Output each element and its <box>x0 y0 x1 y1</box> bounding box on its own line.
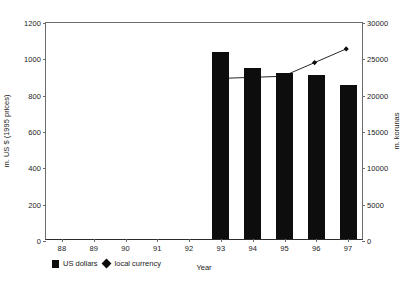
left-axis-tick-label: 200 <box>28 200 41 209</box>
legend-bar-label: US dollars <box>63 259 98 268</box>
right-axis-tick-label: 0 <box>367 237 371 246</box>
x-axis-tick-mark <box>253 239 254 242</box>
x-axis-tick-mark <box>94 239 95 242</box>
x-axis-tick-mark <box>348 239 349 242</box>
x-axis-tick-mark <box>62 239 63 242</box>
right-axis-tick-mark <box>362 168 365 169</box>
right-axis-tick-label: 5000 <box>367 200 384 209</box>
left-axis-tick-mark <box>43 168 46 169</box>
bar <box>244 68 261 239</box>
x-axis-tick-mark <box>189 239 190 242</box>
left-axis-tick-mark <box>43 23 46 24</box>
right-axis-tick-mark <box>362 132 365 133</box>
left-axis-tick-mark <box>43 205 46 206</box>
x-axis-tick-mark <box>126 239 127 242</box>
line-marker-diamond-icon <box>312 60 317 65</box>
right-axis-tick-mark <box>362 23 365 24</box>
chart-figure: m. US $ (1995 prices) m. korunas Year 02… <box>0 0 407 282</box>
x-axis-tick-mark <box>285 239 286 242</box>
x-axis-tick-mark <box>316 239 317 242</box>
left-axis-tick-mark <box>43 59 46 60</box>
x-axis-tick-label: 88 <box>58 244 67 253</box>
x-axis-title: Year <box>196 263 211 272</box>
left-axis-tick-label: 800 <box>28 91 41 100</box>
left-axis-tick-mark <box>43 96 46 97</box>
right-axis-tick-mark <box>362 59 365 60</box>
left-axis-tick-label: 0 <box>37 237 41 246</box>
legend-line-label: local currency <box>115 259 161 268</box>
x-axis-tick-label: 92 <box>185 244 194 253</box>
right-axis-tick-label: 20000 <box>367 91 388 100</box>
x-axis-tick-mark <box>221 239 222 242</box>
x-axis-tick-label: 97 <box>344 244 353 253</box>
left-axis-tick-label: 400 <box>28 164 41 173</box>
bar <box>308 75 325 239</box>
bar <box>276 73 293 239</box>
left-axis-title: m. US $ (1995 prices) <box>2 95 11 168</box>
x-axis-tick-label: 91 <box>153 244 162 253</box>
legend-diamond-marker-icon <box>101 259 111 269</box>
line-marker-diamond-icon <box>344 46 349 51</box>
x-axis-tick-label: 94 <box>248 244 257 253</box>
right-axis-tick-mark <box>362 205 365 206</box>
x-axis-tick-label: 96 <box>312 244 321 253</box>
x-axis-tick-label: 90 <box>121 244 130 253</box>
plot-area: 020040060080010001200 050001000015000200… <box>45 22 363 240</box>
x-axis-tick-label: 89 <box>89 244 98 253</box>
right-axis-tick-mark <box>362 96 365 97</box>
chart-legend: US dollars local currency <box>52 259 161 268</box>
legend-bar-swatch-icon <box>52 260 59 268</box>
right-axis-tick-label: 30000 <box>367 19 388 28</box>
right-axis-tick-label: 25000 <box>367 55 388 64</box>
x-axis-tick-label: 95 <box>280 244 289 253</box>
x-axis-tick-mark <box>157 239 158 242</box>
x-axis-tick-label: 93 <box>217 244 226 253</box>
right-axis-tick-label: 15000 <box>367 128 388 137</box>
left-axis-tick-mark <box>43 132 46 133</box>
left-axis-tick-mark <box>43 241 46 242</box>
right-axis-title: m. korunas <box>392 112 401 149</box>
left-axis-tick-label: 600 <box>28 128 41 137</box>
left-axis-tick-label: 1200 <box>24 19 41 28</box>
right-axis-tick-mark <box>362 241 365 242</box>
left-axis-tick-label: 1000 <box>24 55 41 64</box>
right-axis-tick-label: 10000 <box>367 164 388 173</box>
bar <box>212 52 229 239</box>
bar <box>340 85 357 239</box>
